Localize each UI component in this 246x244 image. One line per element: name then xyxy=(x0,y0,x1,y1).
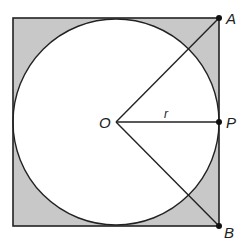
label-p: P xyxy=(226,114,236,131)
point-a-dot xyxy=(216,15,222,21)
diagram-canvas: O A P B r xyxy=(0,0,246,244)
label-b: B xyxy=(224,224,234,241)
label-o: O xyxy=(99,114,111,131)
point-b-dot xyxy=(216,223,222,229)
label-a: A xyxy=(225,10,236,27)
geometry-diagram: O A P B r xyxy=(0,0,246,244)
point-p-dot xyxy=(216,119,222,125)
